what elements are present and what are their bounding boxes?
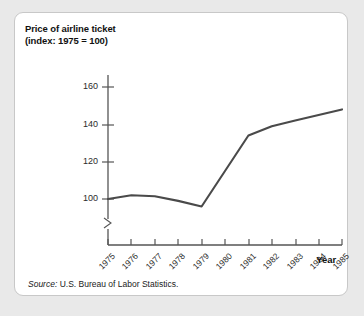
chart-plot-area: Price of airline ticket (index: 1975 = 1… — [15, 13, 349, 297]
x-axis-title: Year — [316, 254, 336, 266]
y-tick-label-120: 120 — [72, 156, 98, 166]
data-series-line — [108, 109, 342, 206]
source-value: U.S. Bureau of Labor Statistics. — [60, 279, 179, 289]
figure-card: Price of airline ticket (index: 1975 = 1… — [14, 12, 348, 296]
y-tick-label-160: 160 — [72, 81, 98, 91]
source-label: Source: — [28, 279, 57, 289]
y-axis-title: Price of airline ticket (index: 1975 = 1… — [25, 23, 121, 46]
source-note: Source: U.S. Bureau of Labor Statistics. — [28, 279, 178, 289]
axis-break-icon — [104, 218, 111, 228]
y-tick-label-140: 140 — [72, 119, 98, 129]
y-tick-label-100: 100 — [72, 193, 98, 203]
